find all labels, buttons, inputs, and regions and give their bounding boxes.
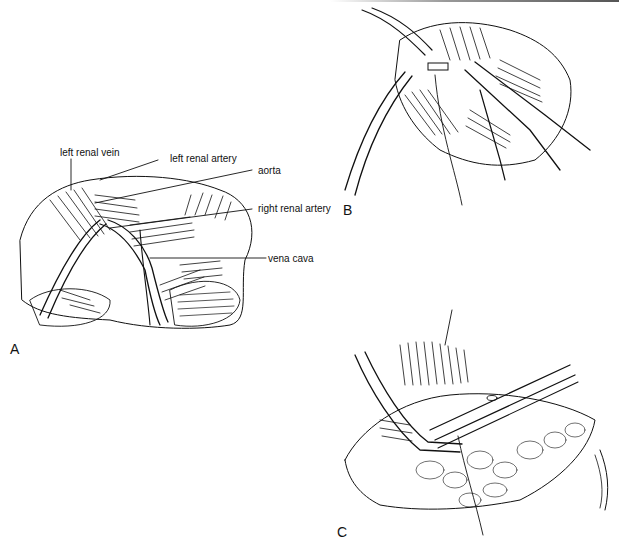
panel-label-b: B [343,203,352,217]
panel-b-drawing [345,8,590,205]
panel-a-leaders [71,159,266,258]
panel-label-c: C [337,525,347,539]
label-right-renal-artery: right renal artery [258,204,331,214]
label-vena-cava: vena cava [268,254,314,264]
panel-a-drawing [20,176,252,328]
label-left-renal-artery: left renal artery [170,154,237,164]
label-left-renal-vein: left renal vein [60,148,119,158]
panel-c-drawing [345,310,608,535]
surgical-illustration [0,0,619,548]
label-aorta: aorta [258,166,281,176]
panel-label-a: A [10,342,19,356]
